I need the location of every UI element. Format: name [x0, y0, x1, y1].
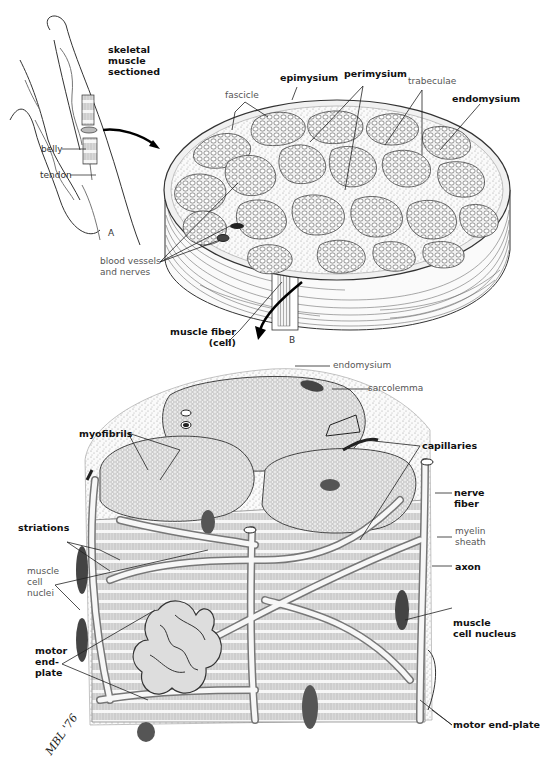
label-nerve-fiber: nerve fiber: [454, 487, 485, 509]
label-trabeculae: trabeculae: [408, 76, 456, 87]
label-endomysium-b: endomysium: [452, 93, 520, 104]
label-epimysium: epimysium: [280, 72, 338, 83]
label-striations: striations: [18, 522, 69, 533]
arrow-a-to-b: [103, 130, 155, 145]
label-perimysium: perimysium: [344, 68, 407, 79]
label-blood-vessels: blood vessels and nerves: [100, 256, 161, 278]
label-muscle-cell-nucleus: muscle cell nucleus: [453, 617, 516, 639]
diagram-artwork: [0, 0, 540, 760]
label-tendon: tendon: [40, 170, 72, 181]
label-capillaries: capillaries: [422, 440, 477, 451]
label-myelin-sheath: myelin sheath: [455, 526, 486, 548]
panel-label-b: B: [289, 335, 295, 345]
label-belly: belly: [41, 144, 63, 155]
label-muscle-fiber: muscle fiber (cell): [170, 326, 236, 348]
label-endomysium-c: endomysium: [333, 360, 391, 371]
label-skeletal-muscle-sectioned: skeletal muscle sectioned: [108, 44, 160, 77]
label-axon: axon: [455, 561, 481, 572]
label-motor-end-plate-right: motor end-plate: [453, 719, 540, 730]
label-motor-end-plate-left: motor end- plate: [35, 645, 67, 678]
panel-c-block: [76, 369, 436, 742]
panel-a-muscle: [81, 95, 97, 180]
panel-label-a: A: [108, 228, 114, 238]
label-muscle-cell-nuclei: muscle cell nuclei: [27, 566, 59, 599]
label-fascicle: fascicle: [225, 90, 259, 101]
label-sarcolemma: sarcolemma: [368, 383, 423, 394]
panel-b-disc: [164, 100, 510, 330]
label-myofibrils: myofibrils: [79, 428, 132, 439]
